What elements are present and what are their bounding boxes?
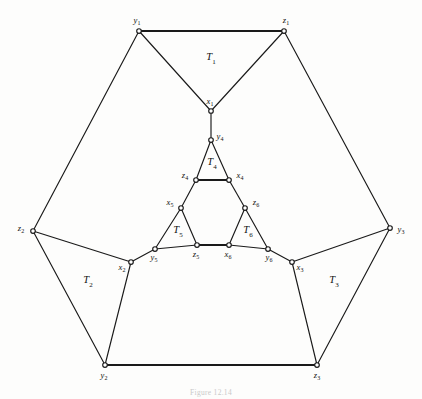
- graph-node-z5: [195, 243, 200, 248]
- vertex-label-y4: y4: [216, 131, 224, 142]
- graph-edge-y1-x1: [139, 31, 211, 111]
- graph-edge-z1-x1: [211, 31, 284, 111]
- graph-node-x3: [290, 260, 295, 265]
- graph-node-z2: [31, 229, 36, 234]
- graph-node-y1: [137, 29, 142, 34]
- graph-edge-z3-x3: [292, 262, 317, 365]
- graph-edge-z1-y3: [284, 31, 390, 228]
- vertex-label-x6: x6: [224, 249, 232, 260]
- graph-node-z1: [282, 29, 287, 34]
- region-label-T2: T2: [83, 274, 93, 288]
- vertex-label-y1: y1: [133, 15, 141, 26]
- graph-edge-y1-z2: [33, 31, 139, 231]
- graph-node-y3: [388, 226, 393, 231]
- graph-node-z4: [194, 178, 199, 183]
- graph-node-y6: [266, 247, 271, 252]
- vertex-label-x1: x1: [206, 96, 214, 107]
- vertex-label-z3: z3: [313, 370, 320, 381]
- edges-layer: [33, 31, 390, 365]
- graph-edge-y4-x4: [211, 140, 229, 180]
- vertex-label-y2: y2: [100, 370, 108, 381]
- graph-edge-x4-z6: [229, 180, 245, 208]
- vertex-label-x3: x3: [296, 262, 304, 273]
- vertex-label-z2: z2: [17, 223, 24, 234]
- vertex-label-y5: y5: [150, 252, 158, 263]
- region-label-T1: T1: [206, 51, 216, 65]
- graph-edge-y2-x2: [105, 262, 131, 365]
- graph-node-x6: [227, 243, 232, 248]
- region-label-T5: T5: [173, 224, 183, 238]
- vertex-label-z5: z5: [192, 249, 199, 260]
- region-label-T4: T4: [207, 156, 217, 170]
- graph-edge-y5-z5: [155, 245, 197, 249]
- graph-edge-x5-z5: [181, 208, 197, 245]
- vertex-label-z6: z6: [252, 197, 259, 208]
- region-label-T6: T6: [243, 224, 253, 238]
- figure-container: y1z1z2y3y2z3x1x2x3y4z4x4x5z6y5z5x6y6 T1T…: [0, 0, 422, 399]
- vertex-label-z4: z4: [181, 170, 188, 181]
- graph-edge-z2-y2: [33, 231, 105, 365]
- region-label-T3: T3: [329, 274, 339, 288]
- vertex-label-x2: x2: [118, 262, 126, 273]
- graph-node-x1: [209, 109, 214, 114]
- region-labels-layer: T1T2T3T4T5T6: [83, 51, 339, 288]
- graph-node-z3: [315, 363, 320, 368]
- vertex-labels-layer: y1z1z2y3y2z3x1x2x3y4z4x4x5z6y5z5x6y6: [17, 15, 405, 381]
- vertex-label-y3: y3: [397, 224, 405, 235]
- graph-edge-x6-y6: [229, 245, 268, 249]
- graph-node-y4: [209, 138, 214, 143]
- graph-node-z6: [243, 206, 248, 211]
- graph-node-y2: [103, 363, 108, 368]
- vertex-label-x5: x5: [166, 197, 174, 208]
- graph-node-x4: [227, 178, 232, 183]
- graph-edge-y3-z3: [317, 228, 390, 365]
- nodes-layer: [31, 29, 393, 368]
- vertex-label-z1: z1: [282, 15, 289, 26]
- graph-edge-z4-x5: [181, 180, 196, 208]
- graph-node-x2: [129, 260, 134, 265]
- vertex-label-y6: y6: [265, 252, 273, 263]
- graph-node-x5: [179, 206, 184, 211]
- graph-edge-y3-x3: [292, 228, 390, 262]
- vertex-label-x4: x4: [236, 170, 244, 181]
- figure-caption: Figure 12.14: [0, 388, 422, 397]
- graph-diagram: y1z1z2y3y2z3x1x2x3y4z4x4x5z6y5z5x6y6 T1T…: [0, 0, 422, 399]
- graph-node-y5: [153, 247, 158, 252]
